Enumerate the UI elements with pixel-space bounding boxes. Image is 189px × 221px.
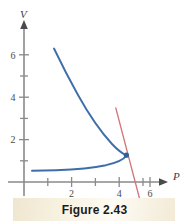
- figure-container: 6 4 2 2 4 6 V P Figure 2.43: [0, 0, 189, 221]
- y-tick-label-4: 4: [11, 92, 16, 103]
- pv-curve: [32, 49, 126, 171]
- y-axis-arrowhead: [20, 20, 28, 29]
- y-tick-label-2: 2: [11, 134, 16, 145]
- figure-caption: Figure 2.43: [0, 198, 189, 221]
- plot-area: 6 4 2 2 4 6 V P: [0, 0, 189, 221]
- x-axis-label: P: [172, 170, 180, 182]
- y-axis-label: V: [20, 8, 28, 20]
- y-tick-label-6: 6: [11, 50, 16, 61]
- tangent-point-marker: [124, 153, 129, 158]
- x-axis-arrowhead: [159, 178, 168, 186]
